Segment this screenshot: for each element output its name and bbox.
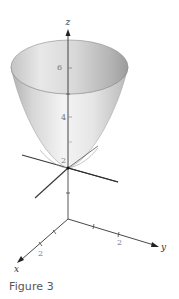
paraboloid-plot: z 6 4 2 x 2 2 y bbox=[0, 0, 179, 299]
x-axis-label: x bbox=[14, 264, 19, 274]
z-tick-label-4: 4 bbox=[61, 113, 66, 122]
vertex-point bbox=[66, 166, 69, 169]
y-trace-line-front bbox=[68, 168, 118, 182]
y-tick-1 bbox=[93, 224, 94, 229]
figure-caption: Figure 3 bbox=[9, 280, 54, 293]
y-tick-label-2: 2 bbox=[117, 238, 122, 247]
z-tick-label-2: 2 bbox=[61, 156, 66, 165]
x-axis-arrow-icon bbox=[17, 256, 24, 263]
x-axis bbox=[21, 219, 68, 260]
y-axis-arrow-icon bbox=[151, 242, 159, 247]
x-tick-label-2: 2 bbox=[38, 249, 43, 258]
y-tick-2 bbox=[118, 232, 119, 237]
z-axis-label: z bbox=[65, 17, 71, 27]
y-axis-label: y bbox=[160, 242, 167, 252]
z-tick-label-6: 6 bbox=[57, 63, 62, 72]
x-trace-line bbox=[35, 168, 68, 198]
z-axis-arrow-icon bbox=[66, 29, 71, 36]
y-axis bbox=[68, 219, 154, 245]
paraboloid-opening bbox=[11, 40, 128, 94]
